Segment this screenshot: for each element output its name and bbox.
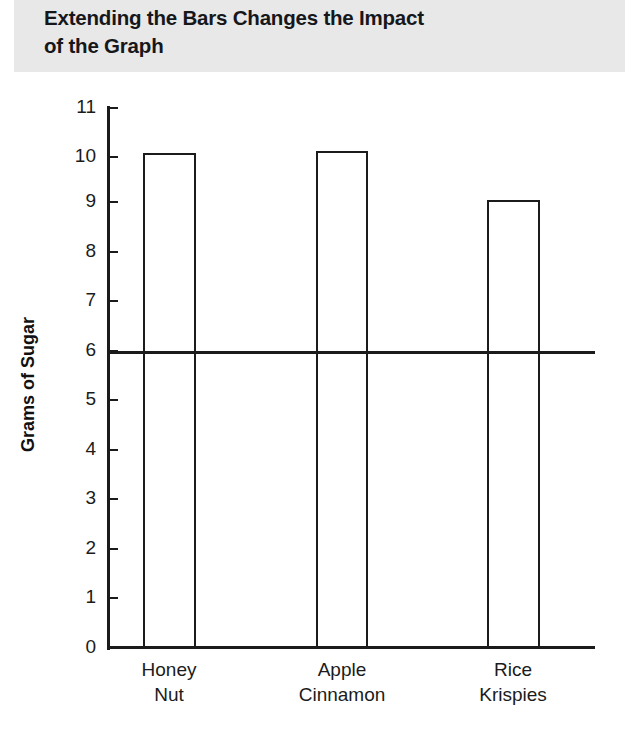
y-tick-5 [107,399,118,401]
y-tick-1 [107,597,118,599]
y-tick-7 [107,300,118,302]
x-category-label-apple-cinnamon: Apple Cinnamon [282,657,402,707]
y-tick-2 [107,548,118,550]
y-tick-11 [107,107,118,109]
y-tick-10 [107,156,118,158]
x-category-label-honey-nut: Honey Nut [109,657,229,707]
y-tick-4 [107,449,118,451]
y-tick-9 [107,201,118,203]
y-tick-0 [107,647,118,649]
y-tick-8 [107,251,118,253]
bar-apple-cinnamon [316,151,368,648]
reference-line [107,351,595,354]
y-tick-3 [107,498,118,500]
y-axis-line [107,106,110,650]
figure: Extending the Bars Changes the Impact of… [0,0,625,733]
x-category-label-rice-krispies: Rice Krispies [453,657,573,707]
bar-rice-krispies [487,200,540,648]
y-axis-label: Grams of Sugar [18,295,39,475]
plot-area: Grams of Sugar 0 1 2 3 4 5 6 7 8 9 10 11 [0,0,625,733]
bar-honey-nut [143,153,196,648]
